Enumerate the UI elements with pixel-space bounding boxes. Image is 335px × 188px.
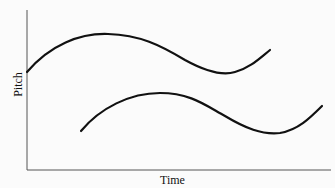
y-axis-label: Pitch bbox=[11, 65, 26, 105]
diagram-canvas bbox=[0, 0, 335, 188]
upper-pitch-curve bbox=[27, 34, 270, 73]
x-axis-label: Time bbox=[160, 173, 185, 188]
lower-pitch-curve bbox=[81, 93, 322, 133]
pitch-time-diagram: Time Pitch bbox=[0, 0, 335, 188]
